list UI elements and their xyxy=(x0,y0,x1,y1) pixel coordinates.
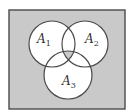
venn-diagram: A1 A2 A3 xyxy=(0,0,134,112)
